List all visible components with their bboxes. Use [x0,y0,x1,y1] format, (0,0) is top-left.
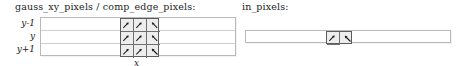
arrow-up-left-icon [147,32,160,44]
pixel-cell [134,19,147,32]
arrow-up-right-icon [134,45,146,58]
pixel-cell [147,45,160,58]
pixel-cell [121,32,134,45]
arrow-up-right-icon [327,32,339,44]
pixel-grid-left [40,17,236,56]
arrow-up-right-icon [121,45,133,58]
panel-title-gauss-comp-edge: gauss_xy_pixels / comp_edge_pixels: [15,1,196,12]
row-label-y-minus-1: y-1 [0,17,35,30]
arrow-up-left-icon [340,32,353,45]
highlight-block-left [120,18,159,57]
pixel-cell [147,32,160,45]
row-label-y-plus-1: y+1 [0,43,35,56]
pixel-grid-right [245,30,451,43]
arrow-up-right-icon [134,32,146,44]
arrow-up-right-icon [121,19,133,31]
pixel-cell [121,45,134,58]
pixel-cell [147,19,160,32]
row-label-group-left: y-1 y y+1 [0,17,38,56]
diagram-root: gauss_xy_pixels / comp_edge_pixels: y-1 … [0,0,464,66]
panel-right: x [244,14,464,66]
highlight-block-right [326,31,352,44]
axis-caption-x-left: x [134,58,139,66]
arrow-up-right-icon [134,19,146,31]
pixel-cell [327,32,340,45]
panel-left: y-1 y y+1 [0,14,238,66]
arrow-up-left-icon [147,45,160,58]
row-label-y: y [0,30,35,43]
arrow-up-left-icon [147,19,160,31]
pixel-cell [121,19,134,32]
pixel-cell [340,32,353,45]
panel-title-in-pixels: in_pixels: [242,1,289,12]
arrow-up-right-icon [121,32,133,44]
pixel-cell [134,45,147,58]
pixel-cell [134,32,147,45]
